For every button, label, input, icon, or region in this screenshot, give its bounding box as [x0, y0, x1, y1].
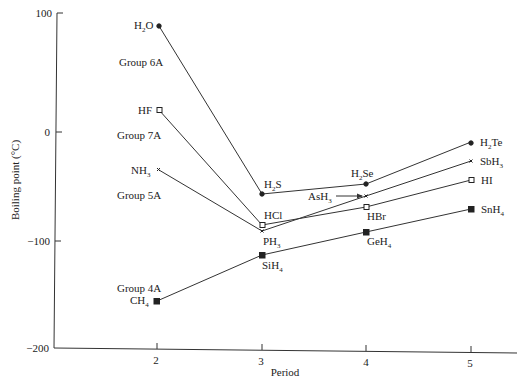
marker-hcl	[260, 223, 265, 228]
label-hi: HI	[481, 174, 493, 186]
marker-h2s	[260, 192, 264, 196]
x-tick-label: 3	[258, 355, 264, 367]
group-7a-line	[159, 110, 471, 225]
marker-h2te	[469, 141, 473, 145]
label-h2s: H2S	[264, 178, 282, 193]
x-tick-label: 5	[467, 357, 473, 369]
y-tick-label: −200	[26, 342, 49, 354]
marker-hi	[469, 178, 474, 183]
marker-h2o	[157, 24, 161, 28]
x-axis-title: Period	[271, 366, 300, 378]
label-hcl: HCl	[264, 209, 282, 221]
label-hbr: HBr	[367, 210, 386, 222]
y-tick-label: 100	[36, 7, 53, 19]
label-geh4: GeH4	[367, 235, 392, 250]
group-label-7a: Group 7A	[117, 129, 161, 141]
marker-hbr	[364, 205, 369, 210]
y-tick-label: 0	[45, 126, 51, 138]
markers	[154, 24, 474, 304]
label-h2se: H2Se	[351, 167, 374, 182]
marker-ch4	[154, 299, 160, 305]
x-axis	[54, 343, 517, 353]
label-ph3: PH3	[263, 235, 281, 250]
group-label-6a: Group 6A	[119, 56, 163, 68]
label-ch4: CH4	[130, 294, 149, 309]
label-sbh3: SbH3	[480, 155, 504, 170]
series-lines	[157, 26, 471, 301]
x-tick-label: 2	[153, 354, 159, 366]
group-label-4a: Group 4A	[117, 282, 161, 294]
label-h2o: H2O	[134, 19, 153, 34]
label-hf: HF	[138, 104, 152, 116]
label-nh3: NH3	[131, 164, 151, 179]
y-axis-title: Boiling point (°C)	[9, 140, 22, 221]
label-sih4: SiH4	[262, 259, 283, 274]
group-6a-line	[159, 26, 471, 194]
label-ash3: AsH3	[308, 190, 332, 205]
label-snh4: SnH4	[481, 203, 505, 218]
boiling-point-chart: 100 0 −100 −200 2 3 4 5 Period Boiling p…	[0, 0, 522, 389]
marker-h2se	[364, 182, 368, 186]
group-label-5a: Group 5A	[117, 189, 161, 201]
x-tick-label: 4	[363, 356, 369, 368]
compound-labels: H2O H2S H2Se H2Te HF HCl HBr HI NH3 PH3 …	[130, 19, 505, 309]
marker-sih4	[260, 253, 266, 259]
marker-snh4	[469, 207, 475, 213]
group-4a-line	[157, 209, 471, 301]
marker-nh3	[157, 168, 160, 171]
y-axis	[54, 13, 63, 348]
label-h2te: H2Te	[480, 136, 502, 151]
y-tick-labels: 100 0 −100 −200	[26, 7, 52, 354]
y-tick-label: −100	[27, 235, 50, 247]
x-tick-labels: 2 3 4 5	[153, 354, 473, 369]
marker-hf	[157, 108, 162, 113]
